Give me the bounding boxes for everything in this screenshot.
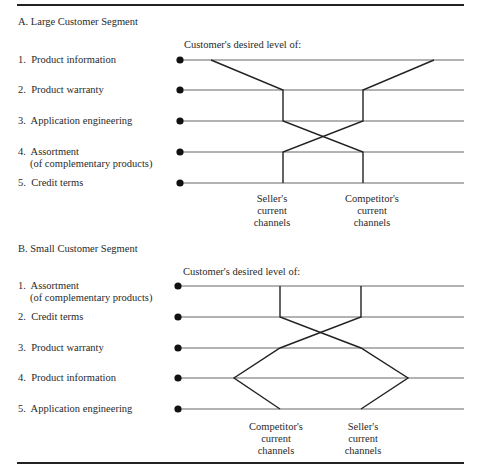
section_b-row-2-dot <box>174 313 181 320</box>
section_a-row-2-dot <box>176 86 183 93</box>
section_b-row-5-dot <box>174 405 181 412</box>
section_a-row-3-dot <box>176 117 183 124</box>
section_b-row-1-dot <box>174 282 181 289</box>
section_b-row-4-dot <box>174 374 181 381</box>
section_a-row-5-dot <box>176 179 183 186</box>
section_b-row-3-dot <box>174 344 181 351</box>
section_a-row-4-dot <box>176 148 183 155</box>
section_a-row-1-dot <box>176 56 183 63</box>
profile-diagram <box>0 0 480 474</box>
